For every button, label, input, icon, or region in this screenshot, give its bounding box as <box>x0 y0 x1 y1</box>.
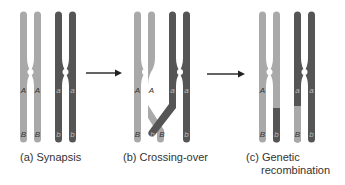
panel-a-synapsis: A A a a B B b b <box>20 12 76 143</box>
gene-label: B <box>21 130 27 139</box>
panel-b-crossing-over: A A a a B b B b <box>134 12 190 143</box>
gene-label: b <box>70 130 75 139</box>
dark-chromosome-pair <box>55 12 76 143</box>
gene-label: b <box>150 130 155 139</box>
gene-label: A <box>259 86 265 95</box>
gene-label: B <box>35 130 41 139</box>
caption-synapsis: (a) Synapsis <box>20 151 81 164</box>
gene-label: B <box>135 130 141 139</box>
gene-label: B <box>295 130 301 139</box>
arrow-right-icon <box>207 71 245 78</box>
gene-label: B <box>159 130 165 139</box>
gene-label: b <box>309 130 314 139</box>
gene-label: B <box>260 130 266 139</box>
gene-label: b <box>56 130 61 139</box>
gene-label: A <box>20 86 26 95</box>
gene-label: a <box>70 86 75 95</box>
light-chromosome-pair <box>20 12 41 143</box>
panel-c-genetic-recombination: A a a B b B b <box>259 12 315 143</box>
gene-label: A <box>34 86 40 95</box>
gene-label: A <box>148 86 154 95</box>
gene-label: a <box>170 86 175 95</box>
gene-label: b <box>274 130 279 139</box>
caption-recombination: recombination <box>261 164 330 177</box>
caption-crossing-over: (b) Crossing-over <box>123 151 208 164</box>
gene-label: b <box>184 130 189 139</box>
gene-label: A <box>134 86 140 95</box>
gene-label: a <box>295 86 300 95</box>
gene-label: a <box>56 86 61 95</box>
arrow-right-icon <box>86 70 122 77</box>
gene-label: a <box>309 86 314 95</box>
caption-genetic: (c) Genetic <box>246 151 300 164</box>
gene-label: a <box>184 86 189 95</box>
